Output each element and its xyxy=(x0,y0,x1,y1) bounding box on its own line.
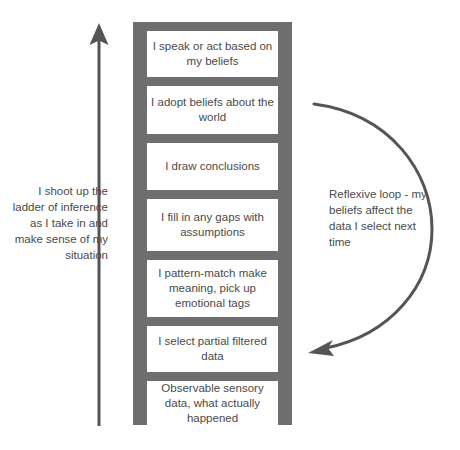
ladder-step-fill-gaps: I fill in any gaps with assumptions xyxy=(147,199,278,251)
caption-reflexive-loop: Reflexive loop - my beliefs affect the d… xyxy=(329,186,433,250)
caption-shoot-up-ladder: I shoot up the ladder of inference as I … xyxy=(4,183,108,263)
ladder-rung-1 xyxy=(133,77,292,86)
ladder-step-speak-act: I speak or act based on my beliefs xyxy=(147,31,278,77)
ladder-rung-top xyxy=(133,22,292,31)
ladder-step-pattern-match: I pattern-match make meaning, pick up em… xyxy=(147,260,278,317)
ladder-rung-5 xyxy=(133,317,292,326)
ladder-step-select-data: I select partial filtered data xyxy=(147,326,278,372)
ladder-step-draw-conclusions: I draw conclusions xyxy=(147,143,278,190)
ladder-rung-4 xyxy=(133,251,292,260)
ladder-rung-3 xyxy=(133,190,292,199)
ladder-step-adopt-beliefs: I adopt beliefs about the world xyxy=(147,86,278,134)
ladder: I speak or act based on my beliefs I ado… xyxy=(133,22,292,425)
ladder-step-observable-data: Observable sensory data, what actually h… xyxy=(147,381,278,425)
ladder-rung-2 xyxy=(133,134,292,143)
ladder-of-inference-diagram: I speak or act based on my beliefs I ado… xyxy=(0,0,460,450)
